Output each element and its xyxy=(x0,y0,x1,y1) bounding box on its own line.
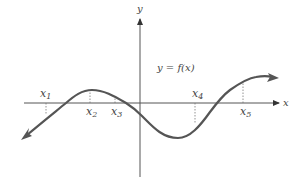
function-label: y = f(x) xyxy=(156,62,195,73)
curve-start-arrow-icon xyxy=(21,128,32,140)
label-x1: x1 xyxy=(40,87,51,101)
function-curve xyxy=(27,76,272,138)
x-axis-label: x xyxy=(283,97,289,108)
label-x3: x3 xyxy=(111,105,122,119)
function-graph-diagram: y x y = f(x) x1 x2 x3 x4 x5 xyxy=(0,0,306,188)
label-x5: x5 xyxy=(240,105,251,119)
y-axis-label: y xyxy=(136,3,143,14)
label-x4: x4 xyxy=(192,87,203,101)
label-x2: x2 xyxy=(86,105,97,119)
